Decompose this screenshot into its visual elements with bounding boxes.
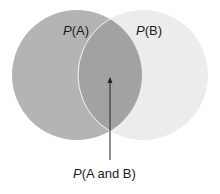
intersection-label: P(A and B)	[73, 166, 136, 181]
set-a-label-rest: (A)	[72, 23, 89, 38]
set-b-label-var: P	[136, 23, 145, 38]
set-b-label: P(B)	[136, 23, 162, 38]
venn-diagram: P(A) P(B) P(A and B)	[0, 0, 220, 194]
intersection-label-rest: (A and B)	[82, 166, 136, 181]
set-a-label-var: P	[63, 23, 72, 38]
set-b-label-rest: (B)	[145, 23, 162, 38]
set-a-label: P(A)	[63, 23, 89, 38]
intersection-label-var: P	[73, 166, 82, 181]
